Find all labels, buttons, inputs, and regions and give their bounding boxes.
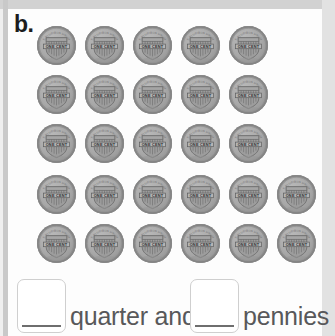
penny-coin: E PLURIBUS UNUMONE CENT bbox=[181, 124, 220, 163]
penny-coin: E PLURIBUS UNUMONE CENT bbox=[181, 26, 220, 65]
penny-coin: E PLURIBUS UNUMONE CENT bbox=[37, 224, 76, 263]
svg-text:ONE CENT: ONE CENT bbox=[94, 93, 116, 98]
penny-coin: E PLURIBUS UNUMONE CENT bbox=[229, 26, 268, 65]
svg-text:ONE CENT: ONE CENT bbox=[94, 242, 116, 247]
penny-coin: E PLURIBUS UNUMONE CENT bbox=[277, 175, 316, 214]
penny-coin: E PLURIBUS UNUMONE CENT bbox=[277, 224, 316, 263]
penny-coin: E PLURIBUS UNUMONE CENT bbox=[133, 75, 172, 114]
svg-text:ONE CENT: ONE CENT bbox=[190, 242, 212, 247]
answer-box-pennies[interactable] bbox=[190, 279, 239, 333]
penny-coin: E PLURIBUS UNUMONE CENT bbox=[181, 75, 220, 114]
svg-text:ONE CENT: ONE CENT bbox=[94, 44, 116, 49]
svg-text:ONE CENT: ONE CENT bbox=[286, 193, 308, 198]
svg-text:ONE CENT: ONE CENT bbox=[142, 44, 164, 49]
svg-text:ONE CENT: ONE CENT bbox=[46, 44, 68, 49]
svg-text:ONE CENT: ONE CENT bbox=[238, 193, 260, 198]
penny-coin: E PLURIBUS UNUMONE CENT bbox=[229, 175, 268, 214]
svg-text:ONE CENT: ONE CENT bbox=[142, 193, 164, 198]
svg-text:ONE CENT: ONE CENT bbox=[46, 142, 68, 147]
svg-text:ONE CENT: ONE CENT bbox=[46, 242, 68, 247]
worksheet-page: b. E PLURIBUS UNUMONE CENTE PLURIBUS UNU… bbox=[0, 0, 335, 336]
svg-text:ONE CENT: ONE CENT bbox=[190, 93, 212, 98]
penny-coin: E PLURIBUS UNUMONE CENT bbox=[133, 26, 172, 65]
penny-coin: E PLURIBUS UNUMONE CENT bbox=[37, 75, 76, 114]
svg-text:ONE CENT: ONE CENT bbox=[94, 193, 116, 198]
penny-coin: E PLURIBUS UNUMONE CENT bbox=[85, 26, 124, 65]
svg-text:ONE CENT: ONE CENT bbox=[94, 142, 116, 147]
penny-coin: E PLURIBUS UNUMONE CENT bbox=[181, 175, 220, 214]
svg-text:ONE CENT: ONE CENT bbox=[238, 93, 260, 98]
penny-coin: E PLURIBUS UNUMONE CENT bbox=[85, 124, 124, 163]
penny-coin: E PLURIBUS UNUMONE CENT bbox=[37, 124, 76, 163]
penny-coin: E PLURIBUS UNUMONE CENT bbox=[133, 224, 172, 263]
penny-coin: E PLURIBUS UNUMONE CENT bbox=[37, 26, 76, 65]
scan-artifact-top bbox=[0, 0, 335, 9]
svg-text:ONE CENT: ONE CENT bbox=[286, 242, 308, 247]
penny-coin: E PLURIBUS UNUMONE CENT bbox=[229, 124, 268, 163]
svg-text:ONE CENT: ONE CENT bbox=[238, 142, 260, 147]
svg-text:ONE CENT: ONE CENT bbox=[142, 242, 164, 247]
answer-rule bbox=[195, 325, 234, 327]
penny-coin: E PLURIBUS UNUMONE CENT bbox=[85, 175, 124, 214]
svg-text:ONE CENT: ONE CENT bbox=[238, 44, 260, 49]
penny-coin: E PLURIBUS UNUMONE CENT bbox=[133, 175, 172, 214]
penny-coin: E PLURIBUS UNUMONE CENT bbox=[85, 75, 124, 114]
svg-text:ONE CENT: ONE CENT bbox=[46, 93, 68, 98]
svg-text:ONE CENT: ONE CENT bbox=[46, 193, 68, 198]
svg-text:ONE CENT: ONE CENT bbox=[238, 242, 260, 247]
svg-text:ONE CENT: ONE CENT bbox=[190, 142, 212, 147]
penny-coin: E PLURIBUS UNUMONE CENT bbox=[37, 175, 76, 214]
answer-rule bbox=[22, 325, 61, 327]
problem-label: b. bbox=[14, 13, 33, 36]
label-quarter-and: quarter and bbox=[70, 304, 196, 329]
svg-text:ONE CENT: ONE CENT bbox=[190, 44, 212, 49]
penny-coin: E PLURIBUS UNUMONE CENT bbox=[229, 75, 268, 114]
scan-artifact-right bbox=[322, 0, 335, 336]
svg-text:ONE CENT: ONE CENT bbox=[142, 142, 164, 147]
penny-coin: E PLURIBUS UNUMONE CENT bbox=[181, 224, 220, 263]
answer-box-quarters[interactable] bbox=[17, 279, 66, 333]
svg-text:ONE CENT: ONE CENT bbox=[142, 93, 164, 98]
label-pennies: pennies bbox=[243, 304, 329, 329]
penny-coin: E PLURIBUS UNUMONE CENT bbox=[133, 124, 172, 163]
svg-text:ONE CENT: ONE CENT bbox=[190, 193, 212, 198]
penny-coin: E PLURIBUS UNUMONE CENT bbox=[229, 224, 268, 263]
penny-coin: E PLURIBUS UNUMONE CENT bbox=[85, 224, 124, 263]
